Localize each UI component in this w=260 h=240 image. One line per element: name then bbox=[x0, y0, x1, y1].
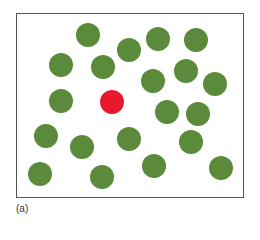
green-dot bbox=[70, 135, 94, 159]
green-dot bbox=[76, 23, 100, 47]
green-dot bbox=[146, 27, 170, 51]
green-dot bbox=[34, 124, 58, 148]
green-dot bbox=[90, 165, 114, 189]
green-dot bbox=[49, 89, 73, 113]
green-dot bbox=[142, 154, 166, 178]
green-dot bbox=[28, 162, 52, 186]
figure-caption: (a) bbox=[16, 203, 28, 214]
green-dot bbox=[49, 53, 73, 77]
green-dot bbox=[179, 130, 203, 154]
green-dot bbox=[186, 102, 210, 126]
green-dot bbox=[174, 59, 198, 83]
green-dot bbox=[184, 28, 208, 52]
green-dot bbox=[209, 156, 233, 180]
red-dot bbox=[100, 90, 124, 114]
green-dot bbox=[117, 127, 141, 151]
green-dot bbox=[91, 55, 115, 79]
green-dot bbox=[203, 72, 227, 96]
green-dot bbox=[155, 100, 179, 124]
green-dot bbox=[141, 69, 165, 93]
green-dot bbox=[117, 38, 141, 62]
